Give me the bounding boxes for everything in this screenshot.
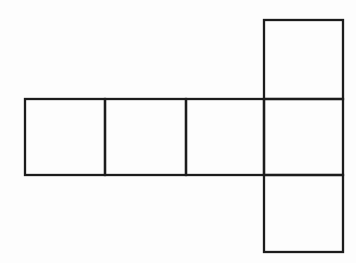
- bottom-flap-square: [264, 175, 343, 252]
- row-square-4: [264, 99, 343, 175]
- row-square-3: [186, 99, 264, 175]
- row-square-2: [105, 99, 186, 175]
- top-flap-square: [264, 20, 343, 99]
- cube-net-figure: [0, 0, 356, 263]
- cube-net-svg: [0, 0, 356, 263]
- row-square-1: [25, 99, 105, 175]
